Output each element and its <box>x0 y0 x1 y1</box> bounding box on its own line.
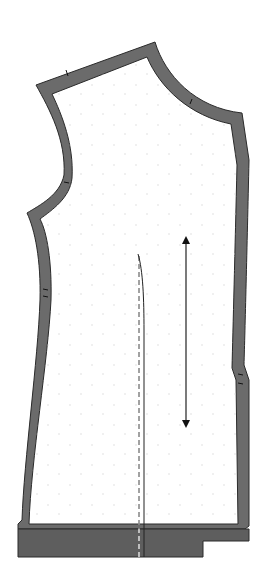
pattern-canvas <box>0 0 265 583</box>
hem-allowance <box>18 529 249 557</box>
